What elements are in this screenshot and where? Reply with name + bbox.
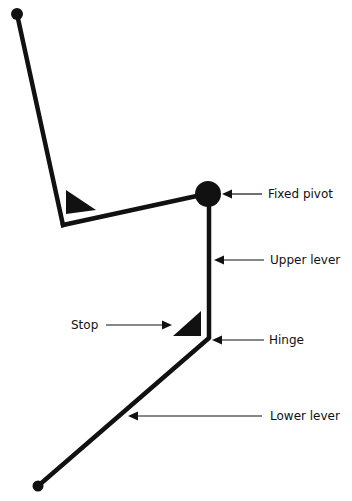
upper-stop-triangle	[66, 190, 96, 214]
label-hinge: Hinge	[269, 333, 304, 347]
label-fixed-pivot: Fixed pivot	[268, 187, 333, 201]
label-stop: Stop	[71, 318, 98, 332]
arrow-fixed-pivot-icon	[222, 190, 232, 199]
upper-arm	[11, 8, 206, 225]
lower-end-knob	[33, 481, 44, 492]
linkage-diagram	[0, 0, 352, 501]
stop-triangle	[173, 311, 201, 336]
label-upper-lever: Upper lever	[270, 253, 340, 267]
lower-lever	[38, 338, 209, 486]
arrow-upper-lever-icon	[214, 256, 224, 265]
arrow-stop-icon	[162, 321, 172, 330]
arrow-hinge-icon	[212, 336, 222, 345]
label-lower-lever: Lower lever	[270, 409, 340, 423]
arrow-lower-lever-icon	[128, 412, 138, 421]
